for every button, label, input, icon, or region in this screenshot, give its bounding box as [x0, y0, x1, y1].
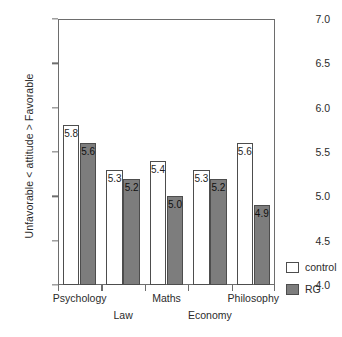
legend-label: control	[305, 261, 337, 273]
x-axis-label-law: Law	[113, 309, 132, 321]
bar-value-label: 5.0	[168, 199, 183, 210]
bars-container: 5.85.65.35.25.45.05.35.25.64.9	[58, 19, 275, 285]
y-tick-label: 6.0	[315, 102, 330, 114]
bar-value-label: 4.9	[255, 208, 270, 219]
legend: controlRG	[286, 258, 337, 302]
bar-control-psychology: 5.8	[63, 125, 80, 285]
bar-chart: Unfavorable < attitude > Favorable 7.06.…	[0, 0, 342, 337]
x-axis-label-maths: Maths	[152, 292, 181, 304]
bar-rg-law: 5.2	[123, 179, 140, 285]
x-tick-mark	[145, 285, 146, 291]
x-tick-mark	[188, 285, 189, 291]
bar-rg-philosophy: 4.9	[254, 205, 271, 285]
bar-control-law: 5.3	[106, 170, 123, 285]
bar-value-label: 5.3	[107, 173, 122, 184]
x-axis-label-economy: Economy	[188, 309, 232, 321]
x-axis-label-psychology: Psychology	[53, 292, 107, 304]
bar-value-label: 5.3	[194, 173, 209, 184]
bar-value-label: 5.2	[124, 182, 139, 193]
legend-label: RG	[305, 283, 321, 295]
legend-swatch-icon	[286, 284, 299, 295]
bar-control-maths: 5.4	[150, 161, 167, 285]
bar-value-label: 5.4	[151, 164, 166, 175]
bar-control-economy: 5.3	[193, 170, 210, 285]
legend-swatch-icon	[286, 262, 299, 273]
bar-rg-psychology: 5.6	[80, 143, 97, 285]
y-tick-label: 5.5	[315, 146, 330, 158]
bar-value-label: 5.6	[238, 146, 253, 157]
y-axis-title: Unfavorable < attitude > Favorable	[23, 31, 35, 281]
legend-item-control[interactable]: control	[286, 258, 337, 276]
x-tick-mark	[232, 285, 233, 291]
bar-rg-maths: 5.0	[167, 196, 184, 285]
y-tick-label: 6.5	[315, 57, 330, 69]
bar-value-label: 5.2	[211, 182, 226, 193]
bar-value-label: 5.6	[81, 146, 96, 157]
y-tick-label: 5.0	[315, 190, 330, 202]
bar-value-label: 5.8	[64, 128, 79, 139]
x-tick-mark	[101, 285, 102, 291]
legend-item-rg[interactable]: RG	[286, 280, 337, 298]
bar-rg-economy: 5.2	[210, 179, 227, 285]
x-axis-label-philosophy: Philosophy	[228, 292, 279, 304]
x-tick-mark	[274, 285, 275, 291]
y-tick-label: 4.5	[315, 235, 330, 247]
x-tick-mark	[58, 285, 59, 291]
y-tick-label: 7.0	[315, 13, 330, 25]
bar-control-philosophy: 5.6	[237, 143, 254, 285]
